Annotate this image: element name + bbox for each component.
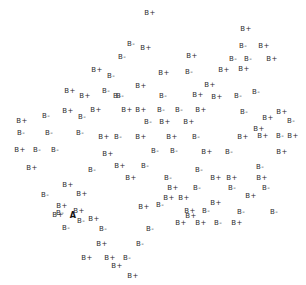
scatter-point-label: B- (42, 113, 50, 120)
scatter-point-label: B- (113, 93, 121, 100)
scatter-point-label: B+ (73, 208, 84, 215)
scatter-point-label: B+ (125, 175, 136, 182)
scatter-point-label: B+ (238, 66, 249, 73)
scatter-point-label: B+ (175, 220, 186, 227)
scatter-point-label: B- (234, 93, 242, 100)
scatter-point-label: B+ (258, 43, 269, 50)
scatter-point-label: B+ (135, 134, 146, 141)
scatter-point-label: B- (136, 241, 144, 248)
scatter-point-label: B- (141, 163, 149, 170)
scatter-point-label: B- (202, 208, 210, 215)
scatter-point-label: B- (146, 226, 154, 233)
scatter-point-label: B+ (14, 147, 25, 154)
scatter-point-label: B- (229, 56, 237, 63)
scatter-point-label: B+ (121, 107, 132, 114)
scatter-point-label: B- (123, 255, 131, 262)
scatter-point-label: B+ (240, 26, 251, 33)
scatter-point-label: B- (287, 118, 295, 125)
scatter-point-label: B- (102, 88, 110, 95)
scatter-point-label: B+ (76, 191, 87, 198)
scatter-point-label: B- (17, 130, 25, 137)
scatter-point-label: B- (256, 164, 264, 171)
scatter-plot-canvas: B+B-B+B-B+B-B+B+B-B+B-B+B-B+B-B+B+B-B-B+… (0, 0, 306, 285)
scatter-point-label: B+ (210, 175, 221, 182)
scatter-point-label: B+ (104, 255, 115, 262)
scatter-point-label: B- (239, 43, 247, 50)
scatter-point-label: B+ (16, 118, 27, 125)
scatter-point-label: B- (88, 167, 96, 174)
scatter-point-label: B+ (140, 45, 151, 52)
scatter-point-label: B+ (98, 134, 109, 141)
scatter-point-label: B- (118, 54, 126, 61)
scatter-point-label: B- (62, 225, 70, 232)
scatter-point-label: B+ (186, 53, 197, 60)
scatter-point-label: B- (192, 134, 200, 141)
scatter-point-label: B- (252, 89, 260, 96)
scatter-point-label: B- (151, 148, 159, 155)
scatter-point-label: B- (114, 134, 122, 141)
scatter-point-label: B+ (245, 193, 256, 200)
scatter-point-label: B- (41, 192, 49, 199)
scatter-point-label: B+ (26, 165, 37, 172)
scatter-point-label: B- (195, 167, 203, 174)
scatter-point-label: B+ (163, 195, 174, 202)
scatter-point-label: B+ (276, 109, 287, 116)
scatter-point-label: B+ (178, 195, 189, 202)
scatter-point-label: B+ (210, 200, 221, 207)
scatter-point-label: B+ (287, 133, 298, 140)
scatter-point-label: B- (164, 175, 172, 182)
scatter-point-label: B+ (62, 182, 73, 189)
scatter-point-label: B+ (90, 107, 101, 114)
scatter-point-label: B- (175, 107, 183, 114)
scatter-point-label: B+ (192, 92, 203, 99)
scatter-point-label: B+ (96, 241, 107, 248)
scatter-point-label: B+ (256, 175, 267, 182)
scatter-point-label: B- (214, 220, 222, 227)
scatter-point-label: B- (225, 149, 233, 156)
scatter-point-label: B- (237, 209, 245, 216)
scatter-point-label: B- (144, 119, 152, 126)
scatter-point-label: B+ (111, 263, 122, 270)
scatter-point-label: B+ (138, 204, 149, 211)
scatter-point-label: B+ (195, 107, 206, 114)
scatter-point-label: B- (270, 209, 278, 216)
scatter-point-label: B+ (159, 119, 170, 126)
scatter-point-label: B+ (167, 185, 178, 192)
scatter-point-label: B- (99, 226, 107, 233)
scatter-point-label: B- (193, 185, 201, 192)
scatter-point-label: B- (33, 147, 41, 154)
scatter-point-label: B+ (211, 94, 222, 101)
scatter-point-label: B+ (91, 67, 102, 74)
scatter-point-label: B+ (257, 133, 268, 140)
scatter-point-label: B- (78, 114, 86, 121)
scatter-point-label: B+ (231, 220, 242, 227)
scatter-point-label: B+ (64, 88, 75, 95)
scatter-point-label: B+ (79, 93, 90, 100)
scatter-point-label: B+ (158, 70, 169, 77)
scatter-point-label: B+ (144, 10, 155, 17)
scatter-point-label: B+ (204, 82, 215, 89)
scatter-point-label: B- (77, 218, 85, 225)
scatter-point-label: B+ (166, 134, 177, 141)
scatter-point-label: B- (276, 133, 284, 140)
scatter-point-label: B- (45, 130, 53, 137)
scatter-point-label: B- (159, 93, 167, 100)
scatter-point-label: B+ (127, 273, 138, 280)
scatter-point-label: B- (170, 148, 178, 155)
scatter-point-label: B- (127, 41, 135, 48)
scatter-point-label: B- (51, 147, 59, 154)
scatter-point-label: B- (107, 73, 115, 80)
scatter-point-label: B- (76, 130, 84, 137)
scatter-point-label: B+ (62, 108, 73, 115)
scatter-point-label: B+ (135, 83, 146, 90)
scatter-point-label: B+ (276, 149, 287, 156)
scatter-point-label: B- (240, 109, 248, 116)
scatter-point-label: B+ (201, 149, 212, 156)
scatter-point-label: B- (156, 202, 164, 209)
scatter-point-label: B+ (114, 163, 125, 170)
scatter-point-label: B- (185, 69, 193, 76)
scatter-point-label: B- (228, 185, 236, 192)
scatter-point-label: B- (157, 107, 165, 114)
scatter-point-label: B+ (195, 220, 206, 227)
scatter-point-label: B+ (218, 67, 229, 74)
